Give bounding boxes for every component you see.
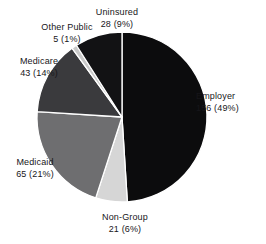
slice-label-medicare-value: 43 (14%)	[6, 68, 72, 80]
slice-label-uninsured-value: 28 (9%)	[78, 19, 156, 31]
slice-label-medicare: Medicare 43 (14%)	[6, 56, 72, 79]
pie-slice-employer	[122, 32, 207, 202]
slice-label-employer-name: Employer	[196, 91, 266, 103]
slice-label-non-group: Non-Group 21 (6%)	[86, 212, 164, 235]
slice-label-medicaid: Medicaid 65 (21%)	[2, 157, 68, 180]
slice-label-employer: Employer 156 (49%)	[196, 91, 266, 114]
slice-label-non-group-name: Non-Group	[86, 212, 164, 224]
slice-label-medicare-name: Medicare	[6, 56, 72, 68]
pie-chart: Employer 156 (49%) Non-Group 21 (6%) Med…	[0, 0, 266, 244]
slice-label-medicaid-value: 65 (21%)	[2, 169, 68, 181]
slice-label-medicaid-name: Medicaid	[2, 157, 68, 169]
slice-label-uninsured: Uninsured 28 (9%)	[78, 7, 156, 30]
slice-label-employer-value: 156 (49%)	[196, 103, 266, 115]
slice-label-other-public-value: 5 (1%)	[26, 34, 108, 46]
slice-label-non-group-value: 21 (6%)	[86, 224, 164, 236]
slice-label-uninsured-name: Uninsured	[78, 7, 156, 19]
